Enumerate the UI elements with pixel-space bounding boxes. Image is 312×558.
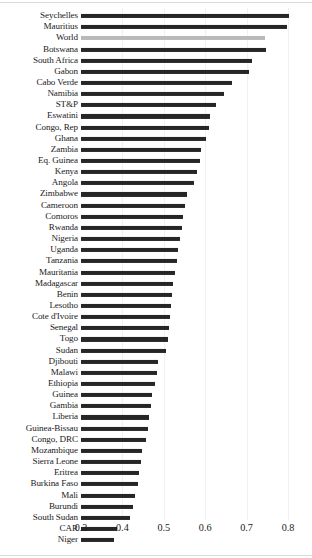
x-tick-label: 0.8 xyxy=(282,522,295,534)
bar xyxy=(81,215,183,219)
chart-row: Congo, Rep xyxy=(0,122,312,133)
bar xyxy=(81,438,146,442)
bar xyxy=(81,282,173,286)
category-label: South Africa xyxy=(33,56,78,65)
chart-row: ST&P xyxy=(0,100,312,111)
bar xyxy=(81,259,177,263)
category-label: Lesotho xyxy=(49,301,78,310)
bar xyxy=(81,226,182,230)
bar xyxy=(81,114,210,118)
bar xyxy=(81,404,151,408)
category-label: Eritrea xyxy=(54,469,78,478)
chart-row: Togo xyxy=(0,334,312,345)
chart-row: Zimbabwe xyxy=(0,189,312,200)
category-label: Liberia xyxy=(52,413,78,422)
category-label: South Sudan xyxy=(33,513,78,522)
chart-row: Eq. Guinea xyxy=(0,155,312,166)
category-label: Rwanda xyxy=(49,223,78,232)
category-label: Gabon xyxy=(54,67,78,76)
category-label: Sudan xyxy=(56,346,78,355)
bar xyxy=(81,59,252,63)
bar xyxy=(81,482,138,486)
chart-row: Kenya xyxy=(0,167,312,178)
category-label: Zambia xyxy=(51,145,78,154)
bar-chart-figure: SeychellesMauritiusWorldBotswanaSouth Af… xyxy=(0,0,312,558)
category-label: Congo, Rep xyxy=(36,123,78,132)
bar xyxy=(81,471,139,475)
category-label: Seychelles xyxy=(40,12,78,21)
category-label: Gambia xyxy=(50,402,78,411)
chart-row: Burundi xyxy=(0,501,312,512)
bar xyxy=(81,237,180,241)
chart-row: Liberia xyxy=(0,412,312,423)
chart-row: Seychelles xyxy=(0,11,312,22)
bar xyxy=(81,393,152,397)
category-label: Burundi xyxy=(49,502,78,511)
chart-row: Eswatini xyxy=(0,111,312,122)
bar xyxy=(81,505,133,509)
chart-row: Nigeria xyxy=(0,234,312,245)
category-label: Sierra Leone xyxy=(32,458,78,467)
chart-row: Djibouti xyxy=(0,356,312,367)
bar xyxy=(81,360,158,364)
chart-row: Guinea xyxy=(0,390,312,401)
bar xyxy=(81,371,157,375)
bar xyxy=(81,181,194,185)
chart-row: Botswana xyxy=(0,44,312,55)
chart-row: Mali xyxy=(0,490,312,501)
chart-row: Uganda xyxy=(0,245,312,256)
bar xyxy=(81,126,209,130)
category-label: ST&P xyxy=(56,101,78,110)
category-label: World xyxy=(56,34,78,43)
bar xyxy=(81,449,142,453)
bar xyxy=(81,326,169,330)
category-label: Mali xyxy=(61,491,78,500)
x-tick-label: 0.5 xyxy=(157,522,170,534)
chart-row: Ghana xyxy=(0,133,312,144)
category-label: Comoros xyxy=(45,212,78,221)
category-label: Madagascar xyxy=(35,279,78,288)
bar xyxy=(81,103,216,107)
chart-row: Malawi xyxy=(0,367,312,378)
category-label: Angola xyxy=(52,179,78,188)
chart-row: Angola xyxy=(0,178,312,189)
bar xyxy=(81,47,266,51)
category-label: Tanzania xyxy=(46,257,78,266)
chart-row: Burkina Faso xyxy=(0,479,312,490)
bar xyxy=(81,204,185,208)
chart-row: Guinea-Bissau xyxy=(0,423,312,434)
category-label: Ghana xyxy=(55,134,78,143)
chart-row: World xyxy=(0,33,312,44)
category-label: Burkina Faso xyxy=(30,480,78,489)
bar xyxy=(81,192,187,196)
bar xyxy=(81,516,130,520)
x-tick-label: 0.7 xyxy=(240,522,253,534)
chart-row: Cabo Verde xyxy=(0,77,312,88)
category-label: Senegal xyxy=(50,324,78,333)
category-label: Mozambique xyxy=(31,446,78,455)
category-label: Togo xyxy=(60,335,78,344)
chart-row: Tanzania xyxy=(0,256,312,267)
x-tick-label: 0.6 xyxy=(199,522,212,534)
category-label: Mauritania xyxy=(39,268,78,277)
category-label: Uganda xyxy=(50,246,78,255)
bar xyxy=(81,427,148,431)
chart-row: Gabon xyxy=(0,66,312,77)
chart-row: Zambia xyxy=(0,144,312,155)
chart-row: Lesotho xyxy=(0,300,312,311)
chart-row: Gambia xyxy=(0,401,312,412)
bar xyxy=(81,81,232,85)
category-label: Cameroon xyxy=(41,201,78,210)
chart-row: Ethiopia xyxy=(0,378,312,389)
bar xyxy=(81,14,289,18)
chart-row: Benin xyxy=(0,289,312,300)
chart-row: Mauritania xyxy=(0,267,312,278)
bar xyxy=(81,270,175,274)
chart-row: Rwanda xyxy=(0,222,312,233)
category-label: Congo, DRC xyxy=(32,435,79,444)
category-label: Ethiopia xyxy=(48,379,78,388)
category-label: Eswatini xyxy=(47,112,78,121)
category-label: Cote d'Ivoire xyxy=(32,313,78,322)
category-label: Botswana xyxy=(43,45,78,54)
category-label: Eq. Guinea xyxy=(38,156,78,165)
